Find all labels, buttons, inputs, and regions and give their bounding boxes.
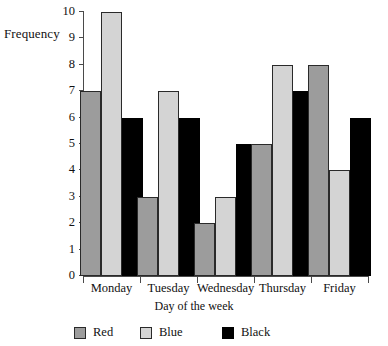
x-axis-line (83, 276, 369, 277)
bar-monday-blue (101, 12, 122, 276)
x-axis-label-thursday: Thursday (254, 281, 311, 296)
y-tick-label: 5 (53, 135, 75, 152)
x-axis-label-wednesday: Wednesday (197, 281, 254, 296)
bar-friday-black (350, 118, 371, 276)
y-tick-label: 8 (53, 56, 75, 73)
bar-wednesday-blue (215, 197, 236, 276)
y-tick-label: 2 (53, 214, 75, 231)
bar-tuesday-red (137, 197, 158, 276)
y-tick-label: 10 (53, 3, 75, 20)
y-tick-label: 6 (53, 109, 75, 126)
legend-label: Red (93, 325, 113, 340)
bar-chart: Frequency 012345678910 MondayTuesdayWedn… (0, 0, 388, 346)
bar-wednesday-red (194, 223, 215, 276)
y-tick-label: 4 (53, 161, 75, 178)
legend-swatch-blue-icon (140, 327, 152, 339)
chart-legend: RedBlueBlack (0, 325, 388, 345)
y-tick-label: 1 (53, 241, 75, 258)
bar-thursday-blue (272, 65, 293, 276)
bar-tuesday-blue (158, 91, 179, 276)
bar-monday-red (80, 91, 101, 276)
bars-layer (83, 12, 368, 276)
x-axis-label-friday: Friday (311, 281, 368, 296)
legend-label: Black (241, 325, 270, 340)
x-tick-mark (368, 277, 369, 283)
bar-thursday-red (251, 144, 272, 276)
plot-area (83, 12, 368, 276)
legend-swatch-black-icon (222, 327, 234, 339)
x-axis-title: Day of the week (0, 299, 388, 314)
bar-friday-blue (329, 170, 350, 276)
y-tick-label: 9 (53, 29, 75, 46)
y-tick-label: 7 (53, 82, 75, 99)
y-axis-title: Frequency (4, 26, 60, 42)
x-axis-label-monday: Monday (83, 281, 140, 296)
y-tick-label: 0 (53, 267, 75, 284)
bar-friday-red (308, 65, 329, 276)
legend-swatch-red-icon (74, 327, 86, 339)
y-tick-label: 3 (53, 188, 75, 205)
legend-label: Blue (159, 325, 183, 340)
legend-item-black: Black (222, 325, 270, 340)
x-axis-label-tuesday: Tuesday (140, 281, 197, 296)
legend-item-blue: Blue (140, 325, 183, 340)
legend-item-red: Red (74, 325, 113, 340)
